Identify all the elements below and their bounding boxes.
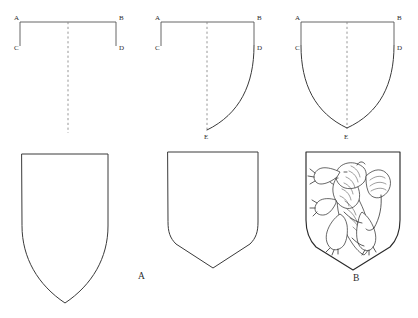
vertex-label-d: D bbox=[257, 44, 262, 52]
vertex-label-a: A bbox=[155, 14, 160, 22]
vertex-label-a: A bbox=[295, 14, 300, 22]
figure-canvas: A B C D A B C D E bbox=[0, 0, 418, 318]
vertex-label-c: C bbox=[155, 44, 160, 52]
vertex-label-b: B bbox=[257, 14, 262, 22]
vertex-label-d: D bbox=[119, 44, 124, 52]
vertex-label-c: C bbox=[14, 44, 19, 52]
vertex-label-d: D bbox=[397, 44, 402, 52]
vertex-label-e: E bbox=[344, 133, 348, 141]
vertex-label-b: B bbox=[397, 14, 402, 22]
vertex-label-c: C bbox=[295, 44, 300, 52]
vertex-label-a: A bbox=[14, 14, 19, 22]
shield-construction-figure: A B C D A B C D E bbox=[0, 0, 418, 318]
lion-head bbox=[336, 163, 366, 189]
caption-b: B bbox=[353, 273, 359, 283]
vertex-label-b: B bbox=[119, 14, 124, 22]
caption-a: A bbox=[138, 271, 145, 281]
vertex-label-e: E bbox=[204, 133, 208, 141]
